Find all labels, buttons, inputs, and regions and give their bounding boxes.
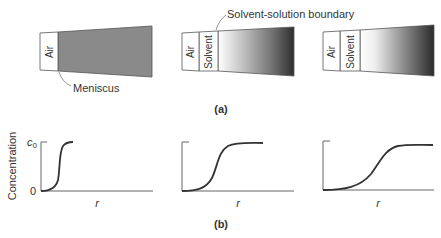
- cell-3-solution: [360, 25, 434, 76]
- meniscus-label: Meniscus: [73, 82, 120, 94]
- cell-3: Air Solvent: [323, 25, 434, 76]
- cell-1-solution: [58, 26, 152, 77]
- plot-1-curve: [41, 142, 73, 191]
- meniscus-leader: [59, 72, 71, 86]
- cell-1: Air: [40, 26, 152, 77]
- y-axis-label: Concentration: [6, 132, 18, 201]
- y-tick-c0: c0: [27, 136, 38, 150]
- plot-3-curve: [323, 145, 433, 190]
- plot-2-axes: [182, 142, 294, 191]
- plot-2-xlabel: r: [236, 197, 241, 209]
- plot-1-axes: [41, 142, 153, 191]
- cell-3-solvent-label: Solvent: [345, 35, 356, 69]
- plot-1-xlabel: r: [95, 197, 100, 209]
- cell-2: Air Solvent: [182, 27, 294, 76]
- plot-3: r: [323, 141, 434, 209]
- y-tick-zero: 0: [30, 185, 36, 197]
- plot-2: r: [182, 142, 294, 209]
- cell-1-air-label: Air: [44, 45, 55, 58]
- plot-3-axes: [323, 141, 434, 190]
- cell-2-solvent-label: Solvent: [203, 35, 214, 69]
- cell-3-air-label: Air: [326, 45, 337, 58]
- boundary-label: Solvent-solution boundary: [227, 8, 355, 20]
- boundary-leader: [216, 15, 226, 30]
- plot-2-curve: [182, 143, 263, 191]
- caption-a: (a): [214, 103, 228, 115]
- plot-1: r: [41, 142, 153, 209]
- plot-3-xlabel: r: [376, 197, 381, 209]
- cell-2-solution: [218, 27, 294, 76]
- sedimentation-diagram: Air Meniscus Air Solvent Solvent-solutio…: [0, 0, 441, 238]
- caption-b: (b): [214, 218, 228, 230]
- cell-2-air-label: Air: [185, 45, 196, 58]
